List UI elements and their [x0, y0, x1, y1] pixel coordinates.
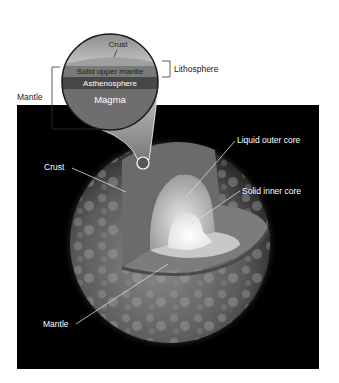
inset-label-asthenosphere: Asthenosphere	[83, 79, 137, 88]
label-lithosphere: Lithosphere	[174, 64, 219, 74]
lithosphere-bracket	[162, 61, 170, 77]
inset-label-crust: Crust	[108, 40, 128, 49]
label-mantle: Mantle	[43, 319, 69, 329]
label-mantle-inset: Mantle	[17, 92, 43, 102]
label-liquid-outer-core: Liquid outer core	[237, 135, 301, 145]
label-solid-inner-core: Solid inner core	[242, 186, 301, 196]
inset-label-magma: Magma	[94, 94, 126, 105]
earth-structure-diagram: Crust Solid upper mantle Asthenosphere M…	[0, 0, 339, 383]
label-crust: Crust	[44, 162, 65, 172]
inset-label-solid-upper-mantle: Solid upper mantle	[77, 67, 144, 76]
magnifier-pin	[137, 157, 149, 169]
